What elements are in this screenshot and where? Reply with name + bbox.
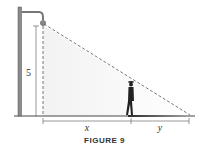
figure-caption: FIGURE 9 [0,136,209,145]
y-label: y [157,122,163,133]
lamp-arm [22,12,44,20]
diagram-canvas: 5 x y [0,0,209,151]
lamp-post [18,7,22,116]
light-cone [43,25,190,116]
x-label: x [84,122,90,133]
height-label: 5 [26,67,31,78]
